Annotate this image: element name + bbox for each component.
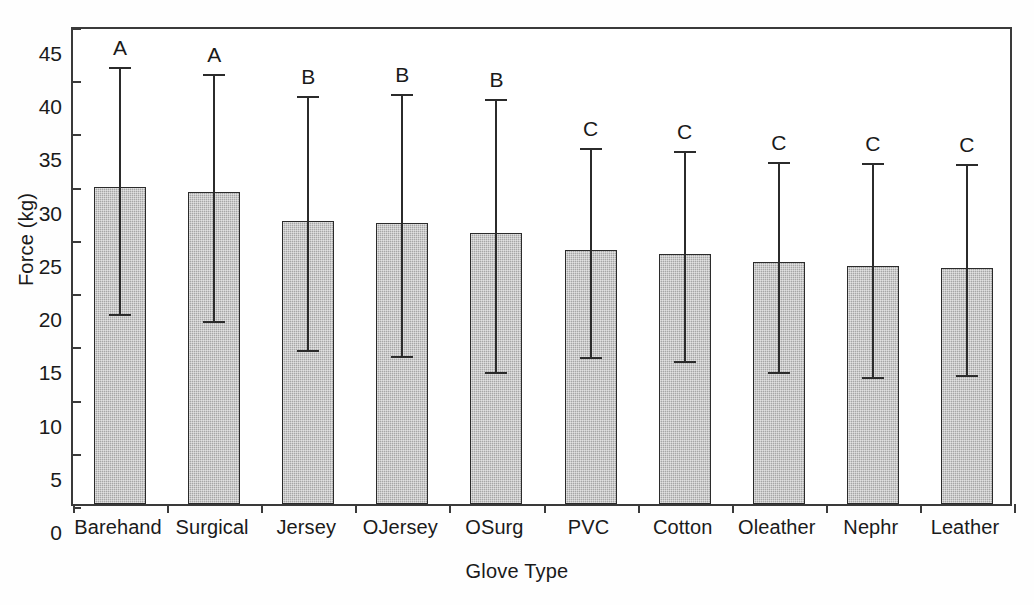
y-axis-tick-label: 10 <box>14 415 62 439</box>
x-axis-category-labels: BarehandSurgicalJerseyOJerseyOSurgPVCCot… <box>71 516 1012 546</box>
y-axis-tick-label: 15 <box>14 361 62 385</box>
error-bar-line <box>778 162 780 372</box>
y-axis-tick <box>73 241 81 243</box>
error-bar-cap-upper <box>674 151 696 153</box>
x-axis-tick <box>732 504 734 513</box>
group-letter-jersey: B <box>301 65 315 89</box>
error-bar-line <box>684 151 686 361</box>
y-axis-tick <box>73 454 81 456</box>
error-bar-cap-lower <box>674 361 696 363</box>
error-bar-cap-upper <box>485 99 507 101</box>
group-letter-nephr: C <box>865 132 880 156</box>
error-bar-cap-lower <box>768 372 790 374</box>
chart-figure: Force (kg) 051015202530354045 AABBBCCCCC… <box>0 0 1034 605</box>
x-axis-tick <box>544 504 546 513</box>
y-axis-tick-label: 45 <box>14 42 62 66</box>
error-bar-cap-lower <box>203 321 225 323</box>
error-bar-cap-upper <box>109 67 131 69</box>
group-letter-pvc: C <box>583 117 598 141</box>
error-bar-line <box>119 67 121 314</box>
y-axis-tick-label: 35 <box>14 148 62 172</box>
x-axis-tick <box>167 504 169 513</box>
error-bar-line <box>590 148 592 357</box>
y-axis-tick <box>73 28 81 30</box>
error-bar-cap-upper <box>956 164 978 166</box>
category-label-barehand: Barehand <box>74 516 162 539</box>
error-bar-cap-upper <box>297 96 319 98</box>
error-bar-line <box>872 163 874 377</box>
x-axis-tick <box>826 504 828 513</box>
y-axis-tick <box>73 401 81 403</box>
group-letter-cotton: C <box>677 120 692 144</box>
x-axis-tick <box>73 504 75 513</box>
plot-area: AABBBCCCCC <box>71 27 1012 506</box>
y-axis-tick <box>73 188 81 190</box>
error-bar-cap-lower <box>485 372 507 374</box>
error-bar-line <box>966 164 968 375</box>
error-bar-cap-lower <box>862 377 884 379</box>
y-axis-tick-label: 40 <box>14 95 62 119</box>
error-bar-line <box>495 99 497 371</box>
group-letter-barehand: A <box>113 36 127 60</box>
y-axis-tick-label: 25 <box>14 255 62 279</box>
error-bar-cap-upper <box>862 163 884 165</box>
category-label-nephr: Nephr <box>843 516 898 539</box>
category-label-cotton: Cotton <box>653 516 713 539</box>
x-axis-tick <box>355 504 357 513</box>
category-label-pvc: PVC <box>568 516 609 539</box>
category-label-jersey: Jersey <box>276 516 336 539</box>
error-bar-cap-upper <box>768 162 790 164</box>
error-bar-line <box>213 74 215 321</box>
y-axis-tick-label: 5 <box>14 468 62 492</box>
category-label-ojersey: OJersey <box>363 516 438 539</box>
category-label-leather: Leather <box>931 516 1000 539</box>
error-bar-cap-lower <box>391 356 413 358</box>
error-bar-cap-upper <box>391 94 413 96</box>
y-axis-tick <box>73 347 81 349</box>
error-bar-cap-upper <box>203 74 225 76</box>
x-axis-tick <box>449 504 451 513</box>
x-axis-tick <box>920 504 922 513</box>
y-axis-tick <box>73 81 81 83</box>
x-axis-title: Glove Type <box>0 560 1034 583</box>
error-bar-cap-lower <box>297 350 319 352</box>
error-bar-cap-lower <box>109 314 131 316</box>
error-bar-line <box>401 94 403 356</box>
group-letter-oleather: C <box>771 131 786 155</box>
error-bar-cap-lower <box>580 357 602 359</box>
y-axis-tick <box>73 294 81 296</box>
group-letter-osurg: B <box>489 68 503 92</box>
error-bar-cap-upper <box>580 148 602 150</box>
y-axis-tick-label: 0 <box>14 521 62 545</box>
x-axis-tick <box>1014 504 1016 513</box>
category-label-surgical: Surgical <box>176 516 249 539</box>
error-bar-cap-lower <box>956 375 978 377</box>
y-axis-tick-label: 30 <box>14 202 62 226</box>
group-letter-leather: C <box>959 133 974 157</box>
y-axis-tick <box>73 134 81 136</box>
y-axis-tick-label: 20 <box>14 308 62 332</box>
error-bar-line <box>307 96 309 350</box>
category-label-osurg: OSurg <box>465 516 523 539</box>
x-axis-tick <box>261 504 263 513</box>
x-axis-tick <box>638 504 640 513</box>
category-label-oleather: Oleather <box>738 516 816 539</box>
group-letter-ojersey: B <box>395 63 409 87</box>
group-letter-surgical: A <box>207 43 221 67</box>
